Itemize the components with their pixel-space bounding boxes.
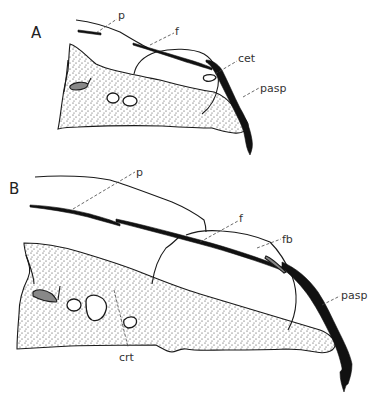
annotation-cet-a: cet bbox=[238, 52, 256, 65]
leader-f-a bbox=[150, 33, 174, 45]
annotation-f-b: f bbox=[239, 212, 244, 225]
annotation-f-a: f bbox=[175, 25, 180, 38]
stippled-bone-a bbox=[58, 44, 248, 133]
panel-label-a: A bbox=[31, 24, 42, 42]
annotation-p-b: p bbox=[136, 166, 143, 179]
stippled-bone-b bbox=[17, 243, 335, 353]
annotation-pasp-b: pasp bbox=[341, 289, 367, 302]
leader-p-b bbox=[73, 172, 135, 209]
cet-structure-a bbox=[203, 75, 216, 82]
panel-label-b: B bbox=[9, 180, 19, 198]
annotation-fb-b: fb bbox=[282, 233, 293, 246]
foramen-a-1 bbox=[107, 93, 119, 103]
annotation-pasp-a: pasp bbox=[260, 82, 286, 95]
anatomical-figure: A p f cet pasp B bbox=[0, 0, 376, 398]
panel-b: B p f fb pasp bbox=[9, 166, 367, 392]
foramen-b-1 bbox=[67, 299, 81, 311]
braincase-outline-b bbox=[152, 236, 180, 284]
leader-pasp-a bbox=[243, 88, 259, 97]
panel-a: A p f cet pasp bbox=[31, 9, 286, 155]
leader-p-a bbox=[96, 19, 117, 33]
foramen-b-2 bbox=[86, 295, 107, 320]
parietal-line-b bbox=[35, 176, 206, 232]
leader-fb-b bbox=[257, 239, 281, 248]
annotation-p-a: p bbox=[118, 9, 125, 22]
thick-segment-a bbox=[78, 30, 101, 35]
frontal-line-a bbox=[133, 43, 212, 70]
foramen-crt bbox=[124, 317, 137, 328]
foramen-a-2 bbox=[123, 96, 137, 106]
annotation-crt-b: crt bbox=[119, 351, 135, 364]
frontal-line-b-right bbox=[116, 219, 285, 271]
parietal-line-a bbox=[76, 20, 148, 48]
